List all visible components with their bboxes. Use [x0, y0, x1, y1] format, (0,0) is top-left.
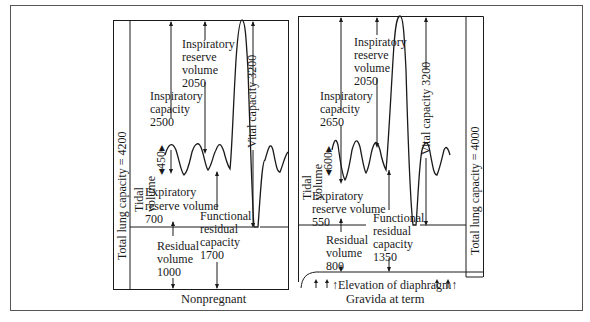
svg-text:Residual: Residual [326, 233, 369, 247]
gravida-panel: Total lung capacity = 4000 Tidal volume … [299, 16, 484, 306]
arrow-up-icon [339, 17, 343, 22]
svg-text:capacity: capacity [150, 102, 190, 116]
arrow-down-icon [387, 267, 391, 272]
svg-text:1350: 1350 [373, 250, 397, 264]
svg-text:2050: 2050 [354, 74, 378, 88]
figure-frame [11, 6, 583, 311]
svg-text:Residual: Residual [157, 239, 200, 253]
arrow-up-icon [325, 279, 329, 283]
nonpregnant-total-lung-capacity: Total lung capacity = 4200 [115, 131, 129, 260]
gravida-vital-capacity: Vital capacity 3200 [419, 62, 433, 155]
arrow-up-icon [203, 21, 207, 26]
gravida-caption: Gravida at term [346, 292, 425, 306]
arrow-down-icon [169, 169, 173, 174]
nonpregnant-ic-label: Inspiratory capacity 2500 [150, 89, 203, 129]
svg-text:550: 550 [312, 215, 330, 229]
arrow-down-icon [215, 284, 219, 289]
nonpregnant-tidal-value: ◂450▸ [154, 145, 168, 175]
svg-text:Functional: Functional [373, 211, 425, 225]
svg-text:1700: 1700 [200, 248, 224, 262]
arrow-up-icon [424, 17, 428, 22]
nonpregnant-caption: Nonpregnant [181, 292, 247, 306]
svg-text:Inspiratory: Inspiratory [150, 89, 203, 103]
gravida-rv-label: Residual volume 800 [326, 233, 369, 273]
svg-text:Inspiratory: Inspiratory [182, 37, 235, 51]
nonpregnant-vital-capacity: Vital capacity 3200 [245, 55, 259, 148]
svg-text:2050: 2050 [182, 76, 206, 90]
gravida-tidal-value: ◂600▸ [321, 146, 335, 176]
gravida-total-lung-capacity: Total lung capacity = 4000 [468, 126, 482, 255]
arrow-down-icon [339, 179, 343, 184]
arrow-up-icon [169, 21, 173, 26]
nonpregnant-frc-label: Functional residual capacity 1700 [200, 209, 252, 262]
arrow-up-icon [251, 21, 255, 26]
gravida-diaphragm-note: ↑Elevation of diaphragm↑ [332, 278, 457, 292]
arrow-up-icon [215, 171, 219, 176]
svg-text:residual: residual [200, 222, 239, 236]
svg-text:Functional: Functional [200, 209, 252, 223]
svg-text:1000: 1000 [157, 265, 181, 279]
nonpregnant-irv-label: Inspiratory reserve volume 2050 [182, 37, 235, 90]
svg-text:2650: 2650 [320, 115, 344, 129]
arrow-up-icon [387, 170, 391, 175]
lung-volume-diagram: Total lung capacity = 4200 Tidal volume … [0, 0, 590, 322]
svg-text:volume: volume [326, 246, 362, 260]
arrow-up-icon [314, 279, 318, 283]
nonpregnant-panel: Total lung capacity = 4200 Tidal volume … [114, 20, 289, 306]
gravida-frc-label: Functional residual capacity 1350 [373, 211, 425, 264]
arrow-up-icon [375, 17, 379, 22]
svg-text:volume: volume [182, 63, 218, 77]
svg-text:reserve: reserve [354, 48, 389, 62]
arrow-down-icon [171, 284, 175, 289]
svg-text:Inspiratory: Inspiratory [320, 89, 373, 103]
svg-text:volume: volume [354, 61, 390, 75]
svg-text:residual: residual [373, 224, 412, 238]
svg-text:Expiratory: Expiratory [312, 189, 363, 203]
arrow-down-icon [203, 149, 207, 154]
svg-text:volume: volume [157, 252, 193, 266]
svg-text:800: 800 [326, 259, 344, 273]
nonpregnant-rv-label: Residual volume 1000 [157, 239, 200, 279]
svg-text:700: 700 [145, 212, 163, 226]
gravida-irv-label: Inspiratory reserve volume 2050 [354, 35, 407, 88]
arrow-up-icon [171, 221, 175, 226]
svg-text:2500: 2500 [150, 115, 174, 129]
arrow-up-icon [339, 218, 343, 223]
svg-text:capacity: capacity [373, 237, 413, 251]
gravida-ic-label: Inspiratory capacity 2650 [320, 89, 373, 129]
svg-text:reserve: reserve [182, 50, 217, 64]
svg-text:capacity: capacity [200, 235, 240, 249]
svg-text:capacity: capacity [320, 102, 360, 116]
svg-text:Inspiratory: Inspiratory [354, 35, 407, 49]
svg-text:Expiratory: Expiratory [145, 185, 196, 199]
